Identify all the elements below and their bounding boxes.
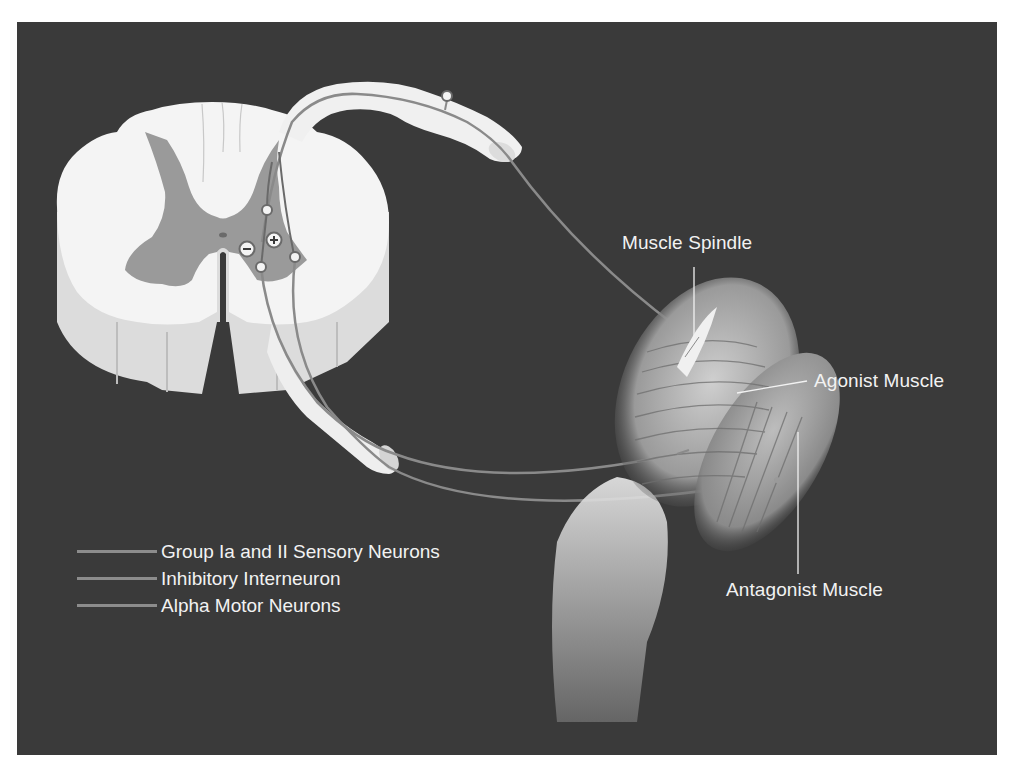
muscle-spindle-label: Muscle Spindle xyxy=(622,232,752,254)
legend-item-interneuron: Inhibitory Interneuron xyxy=(77,565,440,592)
legend-label-motor: Alpha Motor Neurons xyxy=(161,595,341,617)
legend-item-motor: Alpha Motor Neurons xyxy=(77,592,440,619)
motor-neuron-body-agonist xyxy=(290,252,300,262)
legend-label-interneuron: Inhibitory Interneuron xyxy=(161,568,341,590)
legend-item-sensory: Group Ia and II Sensory Neurons xyxy=(77,538,440,565)
legend-swatch-motor xyxy=(77,604,157,607)
legend-label-sensory: Group Ia and II Sensory Neurons xyxy=(161,541,440,563)
legend: Group Ia and II Sensory Neurons Inhibito… xyxy=(77,538,440,619)
diagram-panel: Muscle Spindle Agonist Muscle Antagonist… xyxy=(17,22,997,755)
spinal-cord xyxy=(57,102,389,394)
legend-swatch-interneuron xyxy=(77,577,157,580)
legend-swatch-sensory xyxy=(77,550,157,553)
interneuron-cell-body xyxy=(262,205,272,215)
inhibitory-synapse-icon xyxy=(240,242,255,257)
leg-muscles xyxy=(552,247,870,722)
motor-neuron-body-antagonist xyxy=(256,262,266,272)
agonist-muscle-label: Agonist Muscle xyxy=(814,370,944,392)
antagonist-muscle-label: Antagonist Muscle xyxy=(726,579,883,601)
excitatory-synapse-icon xyxy=(267,233,282,248)
